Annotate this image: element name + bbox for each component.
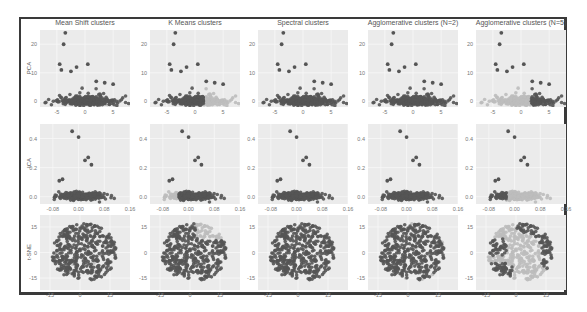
x-tick-label: 15 bbox=[212, 292, 228, 298]
x-tick-label: 0.00 bbox=[399, 206, 415, 212]
y-tick-label: 0.0 bbox=[351, 194, 365, 200]
x-tick-label: 5 bbox=[215, 109, 231, 115]
y-tick-label: 20 bbox=[241, 41, 255, 47]
scatter-panel bbox=[368, 124, 458, 204]
x-tick-label: -0.08 bbox=[45, 206, 61, 212]
x-tick-label: -5 bbox=[377, 109, 393, 115]
x-tick-label: 0.00 bbox=[289, 206, 305, 212]
y-tick-label: 15 bbox=[459, 224, 473, 230]
y-tick-label: -15 bbox=[351, 275, 365, 281]
y-tick-label: 0 bbox=[459, 98, 473, 104]
scatter-panel bbox=[476, 124, 566, 204]
scatter-panel bbox=[258, 215, 348, 290]
y-tick-label: 20 bbox=[351, 41, 365, 47]
column-title: Agglomerative clusters (N=2) bbox=[358, 19, 468, 26]
scatter-panel bbox=[258, 30, 348, 107]
y-tick-label: 15 bbox=[351, 224, 365, 230]
y-tick-label: 0.4 bbox=[351, 136, 365, 142]
x-tick-label: 0 bbox=[295, 109, 311, 115]
x-tick-label: -15 bbox=[42, 292, 58, 298]
x-tick-label: 0.16 bbox=[232, 206, 248, 212]
y-tick-label: 10 bbox=[241, 70, 255, 76]
scatter-panel bbox=[40, 215, 130, 290]
x-tick-label: 0 bbox=[290, 292, 306, 298]
scatter-panel bbox=[40, 30, 130, 107]
y-tick-label: 10 bbox=[459, 70, 473, 76]
x-tick-label: 0 bbox=[400, 292, 416, 298]
x-tick-label: 5 bbox=[433, 109, 449, 115]
y-tick-label: 0.0 bbox=[133, 194, 147, 200]
y-tick-label: 0 bbox=[23, 98, 37, 104]
x-tick-label: 5 bbox=[541, 109, 557, 115]
column-title: Agglomerative clusters (N=5) bbox=[466, 19, 576, 26]
y-tick-label: 0.2 bbox=[241, 165, 255, 171]
y-tick-label: 0 bbox=[459, 250, 473, 256]
x-tick-label: 0.16 bbox=[558, 206, 574, 212]
x-tick-label: -5 bbox=[49, 109, 65, 115]
y-tick-label: 0.0 bbox=[459, 194, 473, 200]
y-tick-label: 0.4 bbox=[241, 136, 255, 142]
x-tick-label: 0 bbox=[182, 292, 198, 298]
y-tick-label: 20 bbox=[459, 41, 473, 47]
y-tick-label: 20 bbox=[133, 41, 147, 47]
y-tick-label: 0 bbox=[23, 250, 37, 256]
y-tick-label: 20 bbox=[23, 41, 37, 47]
y-tick-label: 0 bbox=[351, 250, 365, 256]
x-tick-label: 0.08 bbox=[314, 206, 330, 212]
column-title: Spectral clusters bbox=[248, 19, 358, 26]
x-tick-label: 15 bbox=[538, 292, 554, 298]
y-tick-label: -15 bbox=[23, 275, 37, 281]
x-tick-label: -15 bbox=[152, 292, 168, 298]
y-tick-label: 0.2 bbox=[23, 165, 37, 171]
y-tick-label: 0.4 bbox=[459, 136, 473, 142]
y-tick-label: 10 bbox=[133, 70, 147, 76]
scatter-panel bbox=[150, 215, 240, 290]
x-tick-label: 15 bbox=[320, 292, 336, 298]
y-tick-label: 0.0 bbox=[241, 194, 255, 200]
x-tick-label: -5 bbox=[159, 109, 175, 115]
y-tick-label: 0.4 bbox=[133, 136, 147, 142]
y-tick-label: 10 bbox=[351, 70, 365, 76]
x-tick-label: 5 bbox=[323, 109, 339, 115]
x-tick-label: 0.16 bbox=[122, 206, 138, 212]
y-tick-label: 0.2 bbox=[133, 165, 147, 171]
scatter-panel bbox=[368, 30, 458, 107]
y-tick-label: 0 bbox=[133, 98, 147, 104]
y-tick-label: 0.0 bbox=[23, 194, 37, 200]
row-label: PCA bbox=[26, 53, 32, 83]
y-tick-label: 0 bbox=[241, 250, 255, 256]
x-tick-label: 5 bbox=[105, 109, 121, 115]
x-tick-label: 0.16 bbox=[340, 206, 356, 212]
x-tick-label: -0.08 bbox=[155, 206, 171, 212]
x-tick-label: 0.08 bbox=[532, 206, 548, 212]
x-tick-label: 0.08 bbox=[424, 206, 440, 212]
column-title: Mean Shift clusters bbox=[30, 19, 140, 26]
x-tick-label: -15 bbox=[370, 292, 386, 298]
y-tick-label: 0 bbox=[133, 250, 147, 256]
scatter-panel bbox=[150, 30, 240, 107]
x-tick-label: 0 bbox=[187, 109, 203, 115]
y-tick-label: 15 bbox=[241, 224, 255, 230]
scatter-panel bbox=[476, 30, 566, 107]
x-tick-label: 0 bbox=[513, 109, 529, 115]
scatter-panel bbox=[258, 124, 348, 204]
row-label: ICA bbox=[26, 148, 32, 178]
column-title: K Means clusters bbox=[140, 19, 250, 26]
x-tick-label: -5 bbox=[485, 109, 501, 115]
x-tick-label: 0.00 bbox=[71, 206, 87, 212]
x-tick-label: -0.08 bbox=[373, 206, 389, 212]
y-tick-label: -15 bbox=[459, 275, 473, 281]
scatter-panel bbox=[476, 215, 566, 290]
x-tick-label: 0.08 bbox=[206, 206, 222, 212]
x-tick-label: -0.08 bbox=[263, 206, 279, 212]
x-tick-label: 15 bbox=[430, 292, 446, 298]
x-tick-label: -0.08 bbox=[481, 206, 497, 212]
x-tick-label: -15 bbox=[478, 292, 494, 298]
y-tick-label: 0.2 bbox=[351, 165, 365, 171]
x-tick-label: 0 bbox=[508, 292, 524, 298]
x-tick-label: 0 bbox=[77, 109, 93, 115]
x-tick-label: -15 bbox=[260, 292, 276, 298]
scatter-panel bbox=[40, 124, 130, 204]
x-tick-label: 15 bbox=[102, 292, 118, 298]
x-tick-label: 0.00 bbox=[507, 206, 523, 212]
